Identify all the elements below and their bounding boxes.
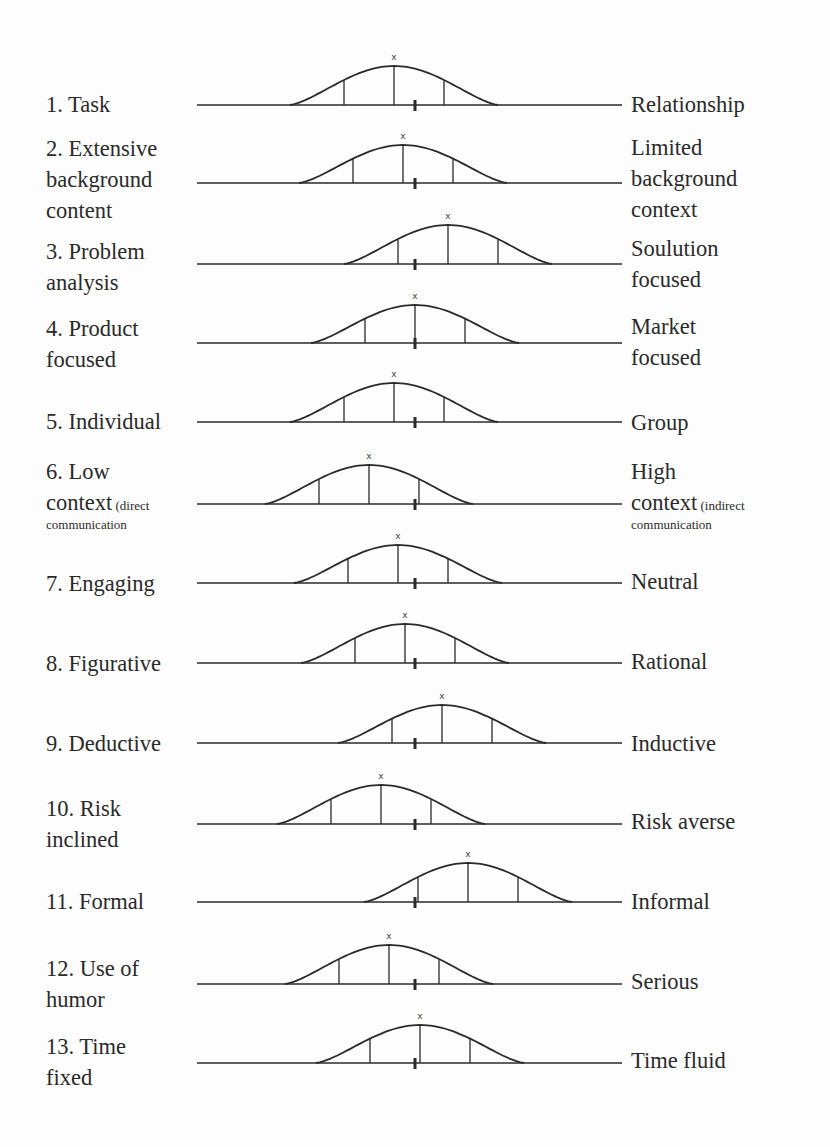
right-pole-label-6: Highcontext (indirectcommunication bbox=[631, 456, 745, 532]
label-line: Time fluid bbox=[631, 1045, 726, 1076]
right-pole-label-3: Soulutionfocused bbox=[631, 233, 719, 295]
label-line: 13. Time bbox=[46, 1031, 126, 1062]
label-note: communication bbox=[46, 518, 149, 532]
peak-marker-icon: x bbox=[400, 131, 406, 141]
label-line: context bbox=[631, 194, 737, 225]
center-tick bbox=[414, 338, 417, 349]
label-line: content bbox=[46, 195, 157, 226]
peak-marker-icon: x bbox=[439, 691, 445, 701]
label-line: Rational bbox=[631, 646, 707, 677]
label-line: 10. Risk bbox=[46, 793, 121, 824]
label-line: Serious bbox=[631, 966, 699, 997]
right-pole-label-1: Relationship bbox=[631, 89, 745, 120]
peak-marker-icon: x bbox=[378, 771, 384, 781]
dimension-row-6: x bbox=[197, 451, 622, 510]
right-pole-label-10: Risk averse bbox=[631, 806, 735, 837]
left-pole-label-8: 8. Figurative bbox=[46, 648, 161, 679]
label-line: 2. Extensive bbox=[46, 133, 157, 164]
right-pole-label-7: Neutral bbox=[631, 566, 698, 597]
left-pole-label-4: 4. Productfocused bbox=[46, 313, 139, 375]
left-pole-label-11: 11. Formal bbox=[46, 886, 144, 917]
label-line: Inductive bbox=[631, 728, 716, 759]
dimension-row-10: x bbox=[197, 771, 622, 830]
label-line: 5. Individual bbox=[46, 406, 161, 437]
left-pole-label-7: 7. Engaging bbox=[46, 568, 155, 599]
right-pole-label-5: Group bbox=[631, 407, 689, 438]
left-pole-label-6: 6. Lowcontext (directcommunication bbox=[46, 456, 149, 532]
center-tick bbox=[414, 658, 417, 669]
center-tick bbox=[414, 578, 417, 589]
center-tick bbox=[414, 178, 417, 189]
label-line: 7. Engaging bbox=[46, 568, 155, 599]
label-line: background bbox=[631, 163, 737, 194]
peak-marker-icon: x bbox=[395, 531, 401, 541]
label-line: context (direct bbox=[46, 487, 149, 518]
label-line: Soulution bbox=[631, 233, 719, 264]
label-line: High bbox=[631, 456, 745, 487]
left-pole-label-12: 12. Use ofhumor bbox=[46, 953, 139, 1015]
center-tick bbox=[414, 897, 417, 908]
peak-marker-icon: x bbox=[391, 52, 397, 62]
label-line: 11. Formal bbox=[46, 886, 144, 917]
label-line: background bbox=[46, 164, 157, 195]
label-note: (indirect bbox=[697, 498, 744, 513]
label-line: analysis bbox=[46, 267, 145, 298]
center-tick bbox=[414, 259, 417, 270]
label-line: 12. Use of bbox=[46, 953, 139, 984]
dimension-row-1: x bbox=[197, 52, 622, 111]
left-pole-label-9: 9. Deductive bbox=[46, 728, 161, 759]
dimension-row-13: x bbox=[197, 1011, 622, 1069]
label-line: context (indirect bbox=[631, 487, 745, 518]
label-line: focused bbox=[631, 342, 701, 373]
right-pole-label-12: Serious bbox=[631, 966, 699, 997]
right-pole-label-11: Informal bbox=[631, 886, 710, 917]
peak-marker-icon: x bbox=[417, 1011, 423, 1021]
left-pole-label-3: 3. Problemanalysis bbox=[46, 236, 145, 298]
left-pole-label-10: 10. Riskinclined bbox=[46, 793, 121, 855]
label-line: Neutral bbox=[631, 566, 698, 597]
dimension-row-4: x bbox=[197, 291, 622, 349]
center-tick bbox=[414, 1058, 417, 1069]
label-line: 4. Product bbox=[46, 313, 139, 344]
label-line: 3. Problem bbox=[46, 236, 145, 267]
label-line: 1. Task bbox=[46, 89, 110, 120]
label-line: inclined bbox=[46, 824, 121, 855]
right-pole-label-2: Limitedbackgroundcontext bbox=[631, 132, 737, 225]
peak-marker-icon: x bbox=[445, 211, 451, 221]
peak-marker-icon: x bbox=[412, 291, 418, 301]
dimension-row-9: x bbox=[197, 691, 622, 749]
center-tick bbox=[414, 499, 417, 510]
dimension-row-12: x bbox=[197, 931, 622, 990]
center-tick bbox=[414, 738, 417, 749]
dimension-row-7: x bbox=[197, 531, 622, 589]
label-line: 6. Low bbox=[46, 456, 149, 487]
dimension-row-3: x bbox=[197, 211, 622, 270]
peak-marker-icon: x bbox=[391, 369, 397, 379]
right-pole-label-13: Time fluid bbox=[631, 1045, 726, 1076]
peak-marker-icon: x bbox=[366, 451, 372, 461]
left-pole-label-1: 1. Task bbox=[46, 89, 110, 120]
label-line: Group bbox=[631, 407, 689, 438]
label-line: 9. Deductive bbox=[46, 728, 161, 759]
dimension-row-8: x bbox=[197, 610, 622, 669]
label-line: focused bbox=[46, 344, 139, 375]
label-line: Relationship bbox=[631, 89, 745, 120]
label-line: Informal bbox=[631, 886, 710, 917]
label-line: Limited bbox=[631, 132, 737, 163]
right-pole-label-9: Inductive bbox=[631, 728, 716, 759]
label-line: humor bbox=[46, 984, 139, 1015]
label-note: communication bbox=[631, 518, 745, 532]
left-pole-label-5: 5. Individual bbox=[46, 406, 161, 437]
peak-marker-icon: x bbox=[465, 849, 471, 859]
label-line: focused bbox=[631, 264, 719, 295]
peak-marker-icon: x bbox=[402, 610, 408, 620]
peak-marker-icon: x bbox=[386, 931, 392, 941]
center-tick bbox=[414, 819, 417, 830]
label-note: (direct bbox=[112, 498, 149, 513]
left-pole-label-13: 13. Timefixed bbox=[46, 1031, 126, 1093]
right-pole-label-4: Marketfocused bbox=[631, 311, 701, 373]
label-line: Market bbox=[631, 311, 701, 342]
label-line: fixed bbox=[46, 1062, 126, 1093]
center-tick bbox=[414, 417, 417, 428]
center-tick bbox=[414, 100, 417, 111]
